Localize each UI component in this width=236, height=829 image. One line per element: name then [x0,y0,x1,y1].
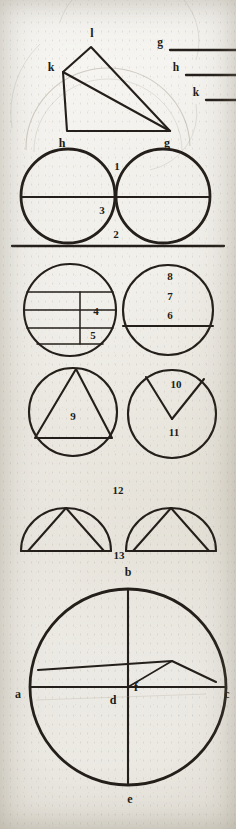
point-label-e: e [127,792,133,806]
figure-label-4: 4 [93,305,99,317]
inscribed-triangle-shape [35,369,112,438]
figure-great-circle: b a d c e f [15,565,230,806]
point-label-d: d [110,693,117,707]
vertex-label-k: k [48,60,55,74]
figure-label-12: 12 [113,484,125,496]
figure-label-11: 11 [169,426,179,438]
vertex-label-h: h [59,136,66,150]
figure-label-1: 1 [114,160,120,172]
figure-sector-wedge: 10 11 [128,370,216,458]
figure-label-10: 10 [171,378,183,390]
quadrilateral-outline [63,47,170,131]
figure-twin-tangent-circles: 1 3 2 [12,149,224,246]
segment-g-label: g [157,36,163,49]
figure-label-8: 8 [167,270,173,282]
point-label-c: c [224,687,230,701]
figure-label-2: 2 [113,228,119,240]
figure-label-3: 3 [99,204,105,216]
segment-k-label: k [193,86,200,98]
reference-segments-group: g h k [157,36,236,100]
figure-halved-circle: 8 7 6 [123,265,213,355]
manuscript-page: g h k l k h g 1 3 2 [0,0,236,829]
semicircle-left-triangle [28,508,104,551]
figure-label-6: 6 [167,309,173,321]
semicircle-right-triangle [133,508,209,551]
point-label-a: a [15,687,21,701]
quadrilateral-diagonal-kg [63,72,170,131]
figure-label-9: 9 [70,410,76,422]
figure-semicircles: 12 13 [21,484,216,561]
figure-inscribed-triangle: 9 [29,368,117,456]
figure-label-7: 7 [167,290,173,302]
ghost-bleedthrough-arcs [11,0,199,170]
figure-divided-circle: 4 5 [24,264,116,356]
geometry-plate: g h k l k h g 1 3 2 [0,0,236,829]
figure-label-5: 5 [90,329,96,341]
segment-h-label: h [173,61,180,73]
point-label-b: b [125,565,132,579]
figure-quadrilateral-klgh: l k h g [48,26,170,150]
figure-label-13: 13 [114,549,126,561]
sector-radius-left [146,377,172,419]
vertex-label-l: l [90,26,94,40]
